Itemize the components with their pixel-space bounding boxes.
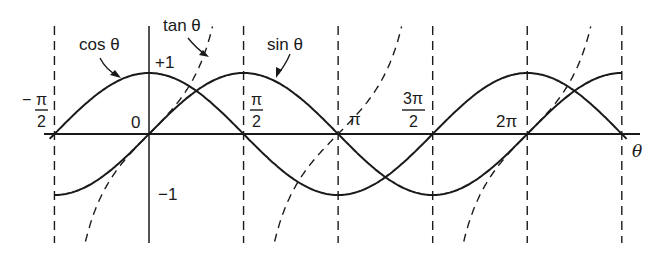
sin-arrowhead [276, 67, 282, 78]
pi-over-2-label: π 2 [250, 91, 263, 130]
annotation-arrows [100, 38, 290, 76]
trig-chart: cos θ tan θ sin θ +1 −1 0 − π 2 π 2 π 3π… [0, 0, 668, 259]
svg-text:−: − [22, 91, 31, 108]
svg-text:π: π [36, 91, 47, 108]
svg-text:π: π [251, 91, 262, 108]
minus-one-label: −1 [158, 185, 177, 204]
neg-pi-over-2-label: − π 2 [22, 91, 48, 130]
sin-label: sin θ [267, 35, 303, 54]
svg-text:2: 2 [37, 113, 46, 130]
three-pi-over-2-label: 3π 2 [402, 90, 425, 130]
svg-text:2: 2 [252, 113, 261, 130]
cos-label: cos θ [79, 35, 120, 54]
two-pi-label: 2π [496, 112, 517, 131]
cos-arrowhead [110, 70, 121, 78]
zero-label: 0 [131, 113, 140, 132]
svg-text:2: 2 [409, 113, 418, 130]
plus-one-label: +1 [155, 53, 174, 72]
svg-text:3π: 3π [403, 90, 423, 107]
tan-label: tan θ [163, 16, 201, 35]
pi-label: π [349, 110, 361, 129]
theta-axis-label: θ [632, 141, 642, 161]
